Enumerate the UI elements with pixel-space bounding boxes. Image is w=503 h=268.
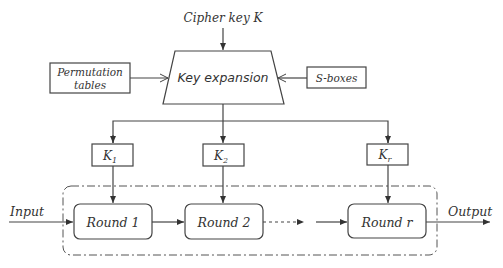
round-2-label: Round 2: [197, 215, 251, 230]
key-expansion-label: Key expansion: [178, 70, 269, 85]
permutation-label-line2: tables: [74, 79, 107, 91]
k2-sub: 2: [222, 156, 228, 165]
round-r-label: Round r: [361, 215, 414, 230]
key-distribution-bus: [113, 121, 388, 143]
cipher-key-label: Cipher key K: [183, 11, 263, 25]
k1-sub: 1: [112, 156, 117, 165]
sboxes-label: S-boxes: [316, 72, 358, 84]
permutation-label-line1: Permutation: [56, 66, 123, 78]
round-1-label: Round 1: [86, 215, 140, 230]
cipher-diagram: Cipher key K Key expansion Permutation t…: [0, 0, 503, 268]
round-key-kr: Kr: [367, 144, 408, 165]
input-label: Input: [9, 204, 45, 219]
round-key-k2: K2: [203, 144, 244, 166]
round-key-k1: K1: [92, 144, 133, 166]
output-label: Output: [448, 204, 493, 219]
